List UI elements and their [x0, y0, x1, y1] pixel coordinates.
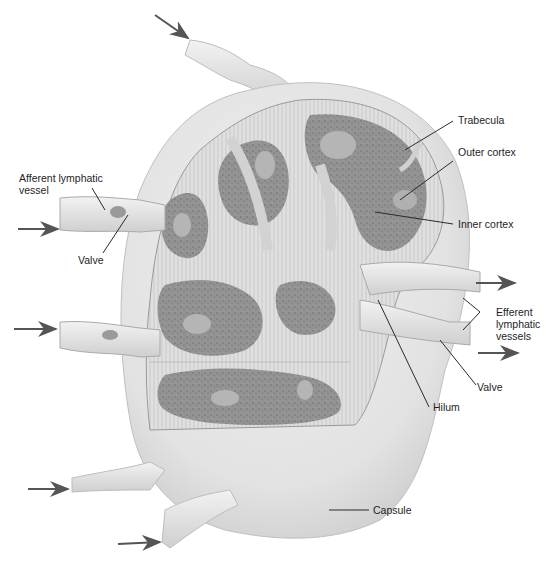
arrow-in-bottom [118, 542, 160, 544]
label-afferent-lymphatic-vessel: Afferent lymphatic vessel [19, 172, 103, 196]
label-valve-right: Valve [477, 381, 503, 393]
label-hilum: Hilum [433, 401, 460, 413]
label-valve-left: Valve [78, 254, 104, 266]
afferent-vessel-left-lower [72, 462, 165, 492]
arrow-in-top [155, 15, 188, 38]
afferent-vessel-left-upper [60, 197, 165, 232]
label-efferent-lymphatic-vessels: Efferent lymphatic vessels [496, 306, 540, 342]
lymph-node-illustration [0, 0, 556, 565]
label-outer-cortex: Outer cortex [458, 146, 516, 158]
label-capsule: Capsule [373, 504, 412, 516]
lymph-node-diagram: Afferent lymphatic vessel Valve Trabecul… [0, 0, 556, 565]
label-trabecula: Trabecula [458, 114, 504, 126]
label-inner-cortex: Inner cortex [458, 218, 513, 230]
